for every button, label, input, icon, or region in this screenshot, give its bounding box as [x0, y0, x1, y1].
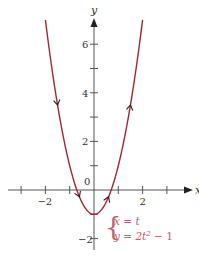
y-equation: y = 2t2 − 1	[113, 230, 173, 242]
x-tick-label: 2	[140, 196, 146, 207]
y-axis-label: y	[90, 4, 98, 17]
x-tick-labels: −22	[37, 196, 146, 207]
y-tick-label: −2	[78, 234, 93, 245]
parametric-equations: { x = t y = 2t2 − 1	[105, 212, 173, 242]
x-axis-arrow-icon	[184, 187, 193, 194]
parametric-curve-figure: −22 642−2 0 x y { x = t y = 2t2 − 1	[0, 0, 199, 256]
x-axis-label: x	[195, 184, 199, 197]
x-tick-label: −2	[37, 196, 52, 207]
axes	[8, 23, 187, 250]
y-axis-arrow-icon	[91, 18, 98, 27]
y-tick-label: 6	[82, 39, 88, 50]
direction-arrows	[54, 99, 133, 202]
x-equation: x = t	[114, 215, 140, 227]
y-tick-label: 4	[82, 88, 88, 99]
y-tick-label: 2	[82, 136, 88, 147]
origin-label: 0	[84, 176, 90, 187]
